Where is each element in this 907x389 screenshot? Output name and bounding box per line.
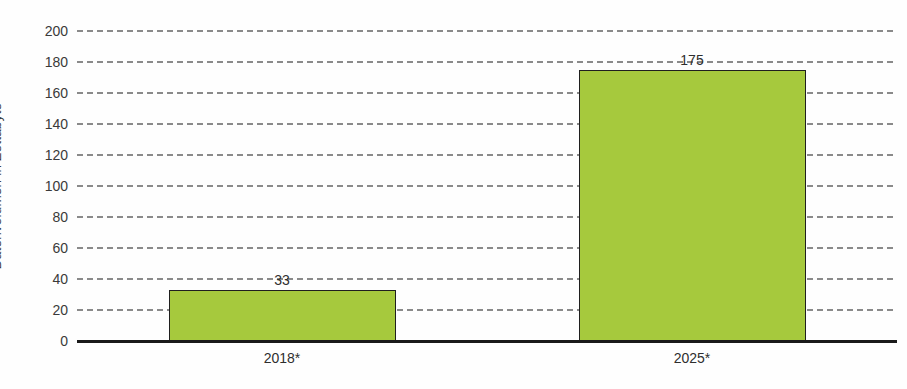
y-tick-label-160: 160	[22, 85, 68, 101]
gridline-y200	[77, 30, 897, 32]
bar-2018	[169, 290, 396, 341]
x-tick-label: 2025*	[674, 350, 711, 366]
bar-2025	[579, 70, 806, 341]
x-tick-label: 2018*	[264, 350, 301, 366]
y-axis-title: Datenvolumen in Zettabyte	[0, 103, 4, 269]
bar-chart: Datenvolumen in Zettabyte 02040608010012…	[0, 0, 907, 389]
gridline-y180	[77, 61, 897, 63]
bar-value-label: 33	[274, 272, 290, 288]
y-tick-label-100: 100	[22, 178, 68, 194]
y-tick-label-0: 0	[22, 333, 68, 349]
y-tick-label-40: 40	[22, 271, 68, 287]
y-tick-label-200: 200	[22, 23, 68, 39]
y-tick-label-80: 80	[22, 209, 68, 225]
y-tick-label-60: 60	[22, 240, 68, 256]
y-tick-label-20: 20	[22, 302, 68, 318]
y-tick-label-120: 120	[22, 147, 68, 163]
y-tick-label-140: 140	[22, 116, 68, 132]
y-tick-label-180: 180	[22, 54, 68, 70]
x-axis-line	[77, 340, 897, 343]
bar-value-label: 175	[680, 52, 703, 68]
